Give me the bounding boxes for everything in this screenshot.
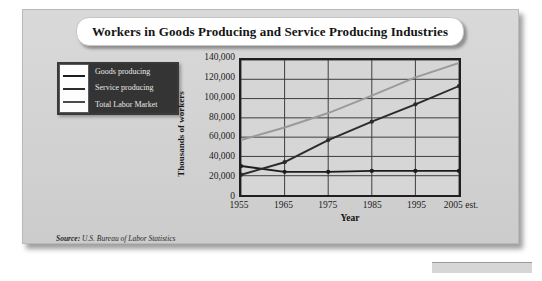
source-note: Source: U.S. Bureau of Labor Statistics xyxy=(56,234,176,243)
y-axis-tick-100000: 100,000 xyxy=(181,92,235,102)
legend-label-service-producing: Service producing xyxy=(95,84,177,92)
chart-legend: Goods producing Service producing Total … xyxy=(57,62,179,115)
page-footer-bar xyxy=(432,262,532,273)
y-axis-tick-80000: 80,000 xyxy=(181,112,235,122)
line-chart-svg xyxy=(241,60,459,195)
x-axis-title: Year xyxy=(300,213,400,223)
y-axis-tick-40000: 40,000 xyxy=(181,151,235,161)
plot-area xyxy=(239,58,461,197)
legend-swatch-goods-producing xyxy=(63,75,85,77)
y-axis-tick-120000: 120,000 xyxy=(181,72,235,82)
legend-label-total-labor-market: Total Labor Market xyxy=(95,101,177,109)
y-axis-tick-140000: 140,000 xyxy=(181,52,235,62)
legend-label-goods-producing: Goods producing xyxy=(95,68,177,76)
figure-page: Workers in Goods Producing and Service P… xyxy=(0,0,542,281)
legend-swatch-total-labor-market xyxy=(63,101,85,103)
chart-title-text: Workers in Goods Producing and Service P… xyxy=(92,24,448,40)
legend-swatch-column xyxy=(59,64,89,113)
y-axis-tick-20000: 20,000 xyxy=(181,171,235,181)
x-axis-tick-2005-est-: 2005 est. xyxy=(431,200,491,210)
legend-inner: Goods producing Service producing Total … xyxy=(59,64,177,113)
chart-title: Workers in Goods Producing and Service P… xyxy=(76,17,464,46)
y-axis-tick-60000: 60,000 xyxy=(181,131,235,141)
source-text: U.S. Bureau of Labor Statistics xyxy=(80,234,175,243)
source-prefix: Source: xyxy=(56,234,80,243)
legend-label-column: Goods producing Service producing Total … xyxy=(89,64,177,113)
legend-swatch-service-producing xyxy=(63,88,85,90)
